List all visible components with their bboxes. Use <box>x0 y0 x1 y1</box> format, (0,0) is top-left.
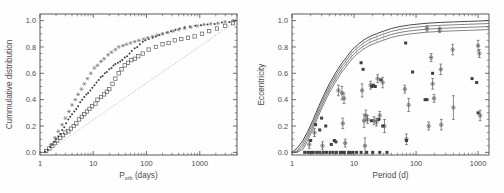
data-point <box>93 84 95 86</box>
data-point <box>475 81 478 84</box>
curve-1 <box>292 23 489 152</box>
data-point <box>360 151 363 154</box>
data-point <box>186 36 189 39</box>
data-point <box>174 29 176 31</box>
data-point <box>113 64 115 66</box>
data-point <box>161 43 164 46</box>
figure-container: 11010010000.00.20.40.60.81.0Cummulative … <box>0 0 504 193</box>
curve-3 <box>292 30 489 153</box>
data-point <box>215 27 218 30</box>
data-point <box>411 70 414 73</box>
y-tick-label: 1.0 <box>278 16 288 25</box>
data-point <box>320 117 323 120</box>
data-point <box>325 151 328 154</box>
data-point-core <box>440 69 442 71</box>
data-point-core <box>343 98 345 100</box>
data-point <box>124 56 126 58</box>
plot-frame <box>292 14 489 155</box>
data-point-core <box>404 88 406 90</box>
data-point <box>130 58 133 61</box>
panel-cumulative-distribution: 11010010000.00.20.40.60.81.0Cummulative … <box>0 0 252 193</box>
data-point <box>180 37 183 40</box>
data-point <box>139 43 141 45</box>
data-point <box>425 98 428 101</box>
data-point <box>142 41 144 43</box>
data-point <box>322 151 325 154</box>
y-tick-label: 0.4 <box>278 95 288 104</box>
data-point <box>111 82 114 85</box>
data-point <box>379 78 382 81</box>
x-axis-title: Porb (days) <box>119 171 158 181</box>
data-point <box>100 76 102 78</box>
data-point-core <box>428 125 430 127</box>
data-point-core <box>361 90 363 92</box>
data-point <box>405 139 408 142</box>
data-point-core <box>439 29 441 31</box>
data-point-core <box>377 78 379 80</box>
data-point <box>141 52 144 55</box>
data-point-core <box>426 28 428 30</box>
x-tick-label: 1000 <box>470 159 486 168</box>
data-point <box>119 60 121 62</box>
curve-0 <box>292 21 489 153</box>
data-point-core <box>341 92 343 94</box>
data-point-core <box>453 107 455 109</box>
data-point <box>404 41 407 44</box>
data-point <box>67 118 69 120</box>
data-point <box>123 64 126 67</box>
y-tick-label: 1.0 <box>26 16 36 25</box>
data-point <box>303 151 306 154</box>
data-point <box>69 116 71 118</box>
data-point <box>351 151 354 154</box>
data-point <box>200 32 203 35</box>
y-tick-label: 0.6 <box>26 69 36 78</box>
data-point <box>431 72 434 75</box>
x-tick-label: 10 <box>350 159 358 168</box>
x-tick-label: 1 <box>290 159 294 168</box>
data-point <box>81 99 83 101</box>
data-point <box>378 151 381 154</box>
data-point <box>309 139 312 142</box>
data-point <box>131 50 133 52</box>
data-point <box>108 68 110 70</box>
data-point <box>173 39 176 42</box>
data-point <box>120 68 123 71</box>
data-point <box>94 102 97 105</box>
data-point <box>332 151 335 154</box>
data-point <box>49 146 51 148</box>
data-point <box>61 129 63 131</box>
y-axis-title: Cummulative distribution <box>5 39 14 129</box>
data-point <box>57 136 59 138</box>
data-point <box>126 61 129 64</box>
data-point <box>385 151 388 154</box>
data-point <box>106 71 108 73</box>
y-tick-label: 0.4 <box>26 95 36 104</box>
data-point-core <box>440 124 442 126</box>
data-point <box>137 54 140 57</box>
x-tick-label: 100 <box>140 159 152 168</box>
data-point <box>134 47 136 49</box>
data-point <box>371 151 374 154</box>
data-point <box>193 35 196 38</box>
data-point <box>89 89 91 91</box>
data-point <box>341 151 344 154</box>
data-point <box>214 23 216 25</box>
data-point-core <box>379 115 381 117</box>
data-point <box>362 68 365 71</box>
data-point-core <box>342 123 344 125</box>
data-point <box>312 151 315 154</box>
y-tick-label: 0.2 <box>278 122 288 131</box>
data-point-core <box>430 57 432 59</box>
data-point <box>59 133 61 135</box>
data-point <box>117 72 120 75</box>
data-point-core <box>479 53 481 55</box>
data-point <box>91 87 93 89</box>
data-point-core <box>322 145 324 147</box>
y-tick-label: 0.8 <box>26 43 36 52</box>
data-point <box>377 118 380 121</box>
x-tick-label: 1000 <box>192 159 208 168</box>
data-point <box>221 22 223 24</box>
data-point <box>223 24 226 27</box>
data-point-core <box>433 98 435 100</box>
data-point-core <box>479 115 481 117</box>
